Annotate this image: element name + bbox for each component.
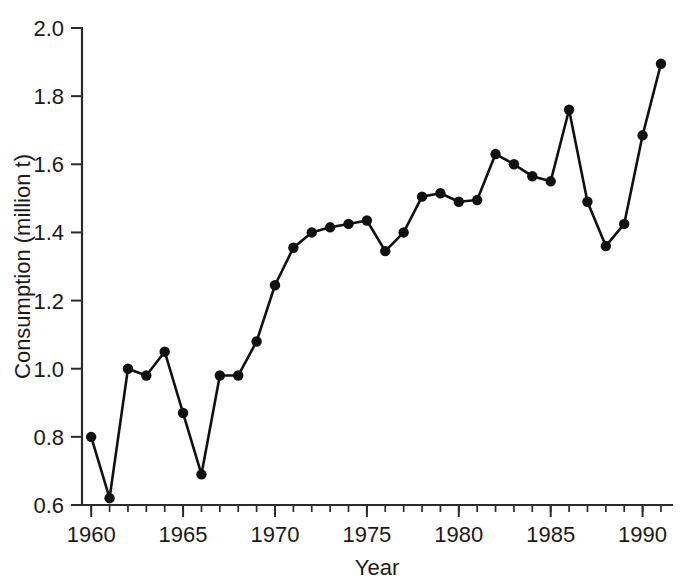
data-point xyxy=(215,370,225,380)
data-point xyxy=(417,191,427,201)
data-point xyxy=(509,159,519,169)
data-point xyxy=(123,364,133,374)
data-point xyxy=(435,188,445,198)
y-tick-label: 2.0 xyxy=(33,16,64,41)
data-point xyxy=(362,215,372,225)
chart-figure: 1960196519701975198019851990 0.60.81.01.… xyxy=(0,0,692,580)
x-tick-label: 1975 xyxy=(342,522,391,547)
data-point xyxy=(343,219,353,229)
data-point xyxy=(582,197,592,207)
y-tick-label: 0.6 xyxy=(33,493,64,518)
y-axis-title: Consumption (million t) xyxy=(10,154,35,379)
x-tick-label: 1965 xyxy=(159,522,208,547)
data-point xyxy=(454,197,464,207)
x-tick-label: 1970 xyxy=(251,522,300,547)
data-point xyxy=(196,469,206,479)
data-point xyxy=(288,243,298,253)
data-point xyxy=(178,408,188,418)
data-point xyxy=(141,370,151,380)
y-tick-label: 1.0 xyxy=(33,357,64,382)
data-point xyxy=(398,227,408,237)
data-point xyxy=(490,149,500,159)
y-tick-label: 1.4 xyxy=(33,220,64,245)
data-point xyxy=(270,280,280,290)
data-point xyxy=(601,241,611,251)
y-tick-label: 1.6 xyxy=(33,152,64,177)
data-point xyxy=(656,59,666,69)
y-tick-label: 1.2 xyxy=(33,289,64,314)
line-chart-plot: 1960196519701975198019851990 0.60.81.01.… xyxy=(0,0,692,580)
chart-background xyxy=(0,0,692,580)
y-tick-label: 1.8 xyxy=(33,84,64,109)
data-point xyxy=(325,222,335,232)
x-tick-label: 1960 xyxy=(67,522,116,547)
data-point xyxy=(527,171,537,181)
y-tick-label: 0.8 xyxy=(33,425,64,450)
x-tick-label: 1990 xyxy=(618,522,667,547)
data-point xyxy=(104,493,114,503)
data-point xyxy=(637,130,647,140)
data-point xyxy=(251,336,261,346)
data-point xyxy=(307,227,317,237)
x-axis-title: Year xyxy=(355,555,399,580)
data-point xyxy=(564,105,574,115)
data-point xyxy=(619,219,629,229)
x-tick-label: 1985 xyxy=(526,522,575,547)
x-tick-label: 1980 xyxy=(434,522,483,547)
data-point xyxy=(380,246,390,256)
data-point xyxy=(86,432,96,442)
data-point xyxy=(233,370,243,380)
data-point xyxy=(160,346,170,356)
data-point xyxy=(472,195,482,205)
data-point xyxy=(545,176,555,186)
